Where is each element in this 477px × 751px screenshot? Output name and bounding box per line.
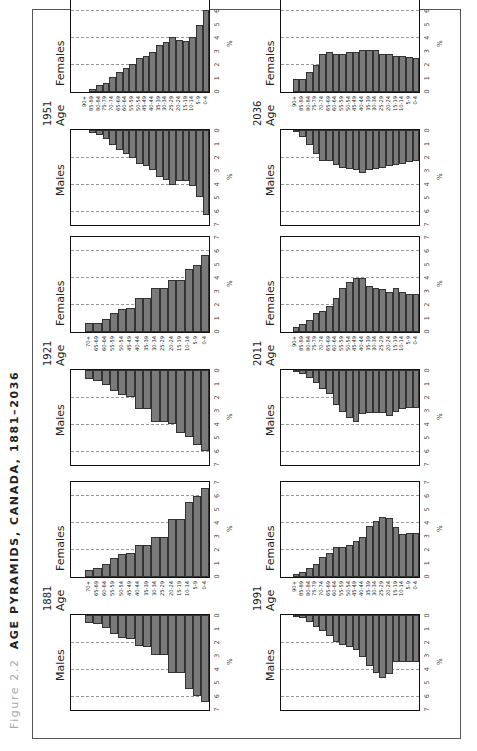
tick-label: 3 [423,49,431,53]
bar-45-49 [126,370,134,397]
age-label: 35-39 [156,96,161,111]
age-label: 50-54 [119,336,124,351]
bar-45-49 [126,308,134,332]
age-label: 10-14 [399,96,404,111]
bar-90+ [293,79,300,92]
bar-65-69 [326,307,333,333]
females-panel [70,0,210,93]
figure-title: Figure 2.2 AGE PYRAMIDS, CANADA, 1881–20… [8,371,21,729]
age-label: 40-44 [359,96,364,111]
females-label: Females [54,280,67,326]
age-label: 5-9 [406,336,411,344]
bar-20-24 [386,54,393,92]
bar-70-74 [319,557,326,577]
bar-10-14 [399,615,406,662]
age-label: 20-24 [386,96,391,111]
bar-45-49 [353,615,360,650]
bar-10-14 [185,370,193,437]
tick-label: 1 [213,316,221,320]
females-panel [280,236,420,333]
bar-15-19 [393,288,400,332]
tick-label: 6 [423,449,431,453]
tick-label: 5 [213,22,221,26]
age-labels: 90+85-8980-8475-7970-7465-6960-6455-5950… [70,94,210,128]
bar-55-59 [339,54,346,92]
tick-label: 6 [423,494,431,498]
age-label: 75-79 [312,581,317,596]
bar-15-19 [393,130,400,165]
bar-80-84 [306,370,313,378]
age-header: Age [264,105,277,126]
bar-0-4 [413,533,420,577]
tick-label: 1 [423,142,431,146]
bar-40-44 [149,130,156,170]
age-label: 60-64 [102,336,107,351]
bar-75-79 [313,564,320,577]
tick-label: 2 [213,395,221,399]
bar-25-29 [379,517,386,577]
bar-15-19 [183,130,190,181]
bar-55-59 [110,558,118,577]
gridline [281,451,419,452]
bar-80-84 [306,568,313,577]
age-label: 50-54 [346,96,351,111]
tick-label: 4 [213,182,221,186]
tick-label: 4 [423,667,431,671]
tick-label: 3 [213,169,221,173]
bar-90+ [293,615,300,617]
bar-55-59 [110,370,118,391]
gridline [281,211,419,212]
gridline [281,37,419,38]
bar-70-74 [319,54,326,92]
tick-label: 2 [213,640,221,644]
pyramid-1881: 1881AgeMalesFemales01234567%01234567%70+… [40,481,240,711]
tick-label: 5 [423,196,431,200]
bar-80-84 [306,320,313,332]
gridline [281,495,419,496]
age-label: 35-39 [366,581,371,596]
bar-70-74 [319,615,326,631]
tick-label: 1 [213,76,221,80]
bar-30-34 [373,130,380,169]
bar-10-14 [189,37,196,92]
bar-0-4 [413,58,420,92]
bar-0-4 [413,130,420,161]
age-label: 80-84 [306,336,311,351]
tick-label: 5 [423,262,431,266]
age-label: 30-34 [372,96,377,111]
age-label: 55-59 [110,336,115,351]
age-label: 55-59 [339,96,344,111]
age-label: 50-54 [346,336,351,351]
bar-0-4 [203,10,210,92]
bar-25-29 [160,537,168,577]
bar-25-29 [169,37,176,92]
bar-15-19 [176,615,184,673]
bar-65-69 [93,370,101,381]
bar-0-4 [413,370,420,408]
bar-30-34 [151,288,159,332]
age-label: 15-19 [393,96,398,111]
tick-label: 0 [423,329,431,333]
age-label: 0-4 [413,336,418,344]
bar-25-29 [160,288,168,332]
year-label: 1881 [42,581,53,611]
bar-55-59 [339,547,346,577]
bar-60-64 [102,564,110,577]
females-axis: 01234567 [423,236,433,333]
age-label: 10-14 [189,96,194,111]
bar-10-14 [189,130,196,186]
bar-10-14 [185,269,193,332]
age-label: 0-4 [202,581,207,589]
age-label: 20-24 [386,581,391,596]
bar-60-64 [333,370,340,405]
bar-90+ [293,574,300,577]
bar-5-9 [193,615,201,696]
tick-label: 4 [423,36,431,40]
gridline [281,424,419,425]
bar-70+ [85,615,93,623]
bar-40-44 [359,537,366,577]
bar-50-54 [346,130,353,169]
bar-40-44 [149,52,156,92]
bar-25-29 [169,130,176,185]
bar-55-59 [129,130,136,158]
